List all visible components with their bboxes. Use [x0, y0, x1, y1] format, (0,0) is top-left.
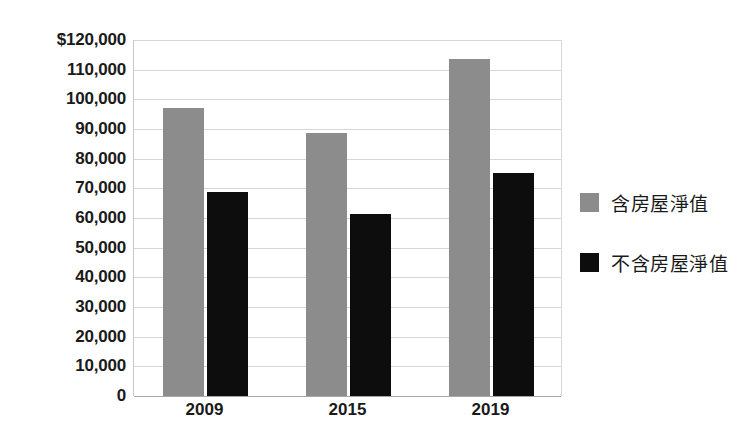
x-axis-tick-label: 2019 [472, 400, 510, 420]
y-axis-tick-label: 20,000 [6, 327, 126, 347]
bar [493, 173, 534, 396]
legend-entry[interactable]: 含房屋淨值 [580, 172, 752, 232]
y-axis-tick-label: 90,000 [6, 119, 126, 139]
y-axis-tick-labels: 010,00020,00030,00040,00050,00060,00070,… [0, 40, 126, 396]
legend-swatch-icon [580, 193, 599, 212]
y-axis-tick-label: $120,000 [6, 30, 126, 50]
x-axis-tick-label: 2009 [186, 400, 224, 420]
y-axis-tick-label: 10,000 [6, 356, 126, 376]
bar [207, 192, 248, 396]
y-axis-tick-label: 30,000 [6, 297, 126, 317]
gridline [134, 99, 561, 100]
gridline [134, 40, 561, 41]
x-axis-tick-label: 2015 [329, 400, 367, 420]
legend-label: 含房屋淨值 [611, 189, 709, 216]
gridline [134, 396, 561, 397]
y-axis-tick-label: 80,000 [6, 149, 126, 169]
bar [449, 59, 490, 396]
legend-swatch-icon [580, 253, 599, 272]
legend-label: 不含房屋淨值 [611, 249, 728, 276]
y-axis-tick-label: 110,000 [6, 60, 126, 80]
y-axis-tick-label: 0 [6, 386, 126, 406]
gridline [134, 70, 561, 71]
bar-chart: 010,00020,00030,00040,00050,00060,00070,… [0, 0, 752, 437]
bar [306, 133, 347, 396]
bar [163, 108, 204, 396]
bar [350, 214, 391, 396]
x-axis-tick-labels: 200920152019 [133, 400, 562, 430]
y-axis-tick-label: 70,000 [6, 178, 126, 198]
legend-entry[interactable]: 不含房屋淨值 [580, 232, 752, 292]
y-axis-tick-label: 40,000 [6, 267, 126, 287]
plot-area [133, 40, 562, 396]
y-axis-tick-label: 50,000 [6, 238, 126, 258]
chart-legend: 含房屋淨值不含房屋淨值 [580, 172, 752, 292]
y-axis-tick-label: 100,000 [6, 89, 126, 109]
y-axis-tick-label: 60,000 [6, 208, 126, 228]
